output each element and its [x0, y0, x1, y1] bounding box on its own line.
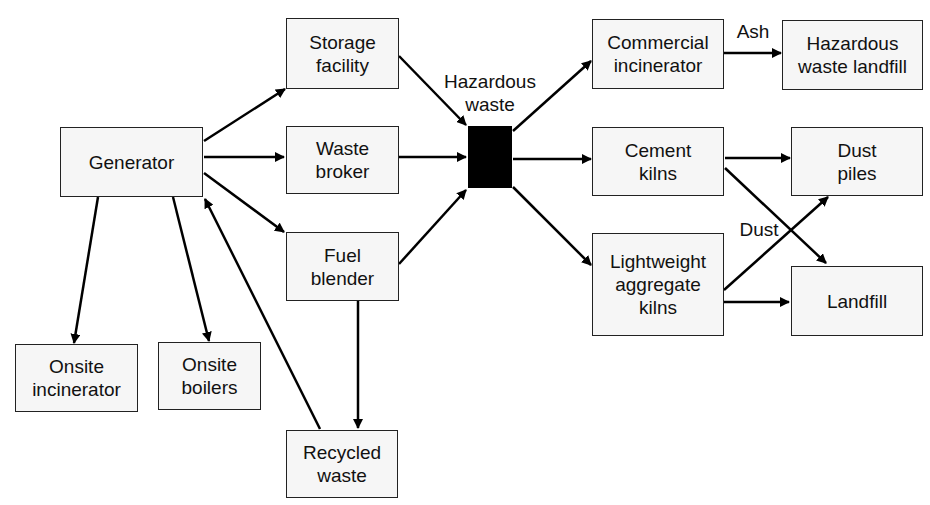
- waste-flow-diagram: Generator Storage facility Waste broker …: [0, 0, 930, 505]
- node-storage-facility: Storage facility: [286, 18, 399, 89]
- arrow-generator-to-onsite-boilers: [173, 197, 209, 341]
- hub-label: Hazardous waste: [430, 70, 550, 116]
- node-generator: Generator: [60, 127, 203, 197]
- node-fuel-blender: Fuel blender: [286, 232, 399, 301]
- node-commercial-incinerator: Commercial incinerator: [592, 19, 724, 89]
- node-hazardous-waste-landfill: Hazardous waste landfill: [782, 20, 923, 90]
- node-cement-kilns: Cement kilns: [592, 127, 724, 196]
- node-onsite-incinerator: Onsite incinerator: [15, 344, 138, 412]
- node-waste-broker: Waste broker: [286, 126, 399, 194]
- node-recycled-waste: Recycled waste: [286, 430, 398, 498]
- node-lightweight-aggregate-kilns: Lightweight aggregate kilns: [592, 233, 724, 336]
- arrow-fuel-blender-to-hub: [399, 190, 466, 264]
- node-landfill: Landfill: [791, 266, 923, 336]
- arrow-hub-to-lightweight-kilns: [513, 187, 591, 265]
- edge-label-dust: Dust: [734, 218, 784, 241]
- hazardous-waste-hub: [468, 126, 512, 188]
- arrow-generator-to-onsite-incinerator: [74, 197, 98, 343]
- node-dust-piles: Dust piles: [791, 127, 923, 196]
- node-onsite-boilers: Onsite boilers: [158, 342, 261, 410]
- arrow-generator-to-storage: [204, 89, 285, 141]
- edge-label-ash: Ash: [733, 20, 773, 43]
